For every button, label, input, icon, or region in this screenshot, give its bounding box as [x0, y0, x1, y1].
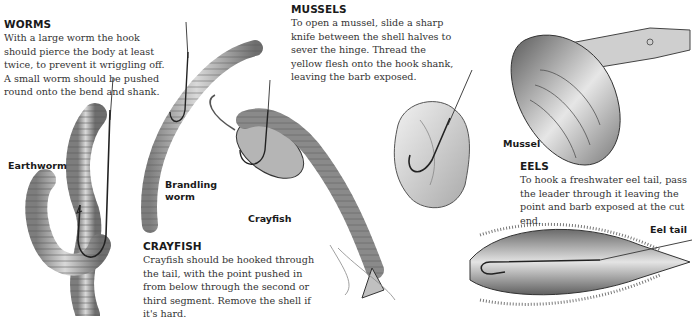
- mussels-heading: MUSSELS: [291, 3, 456, 15]
- mussels-body: To open a mussel, slide a sharp knife be…: [291, 16, 456, 84]
- eels-body: To hook a freshwater eel tail, pass the …: [520, 173, 695, 227]
- earthworm-illustration: [36, 78, 113, 315]
- worms-heading: WORMS: [4, 18, 172, 30]
- eels-section: EELS To hook a freshwater eel tail, pass…: [520, 160, 695, 227]
- label-mussel: Mussel: [503, 138, 540, 150]
- label-eel-tail: Eel tail: [650, 224, 687, 236]
- label-earthworm: Earthworm: [8, 160, 67, 172]
- crayfish-heading: CRAYFISH: [143, 240, 315, 252]
- label-brandling-worm: Brandling worm: [165, 179, 217, 203]
- mussel-flesh-illustration: [394, 70, 472, 208]
- label-crayfish: Crayfish: [248, 213, 291, 225]
- worms-body: With a large worm the hook should pierce…: [4, 31, 172, 99]
- worms-section: WORMS With a large worm the hook should …: [4, 18, 172, 99]
- eel-tail-illustration: [470, 224, 692, 304]
- label-brandling-line2: worm: [165, 191, 217, 203]
- label-brandling-line1: Brandling: [165, 179, 217, 191]
- crayfish-section: CRAYFISH Crayfish should be hooked throu…: [143, 240, 315, 321]
- mussels-section: MUSSELS To open a mussel, slide a sharp …: [291, 3, 456, 84]
- eels-heading: EELS: [520, 160, 695, 172]
- crayfish-body: Crayfish should be hooked through the ta…: [143, 253, 315, 321]
